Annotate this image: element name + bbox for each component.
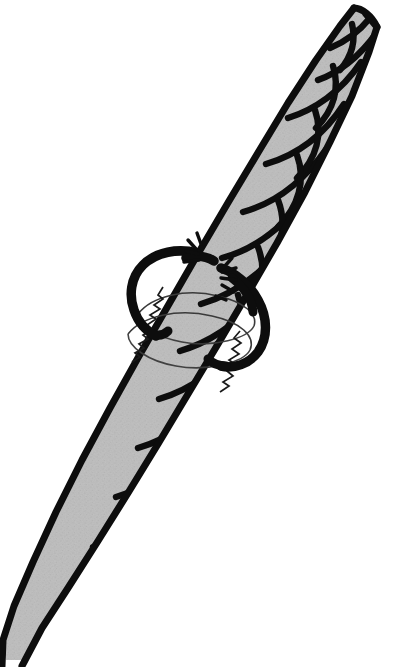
whipping-loop-upper-left-tail [152,331,168,335]
rope-drawing-canvas [0,0,398,667]
rope-illustration-figure: Twisted rope with whipping loop A three-… [0,0,398,667]
